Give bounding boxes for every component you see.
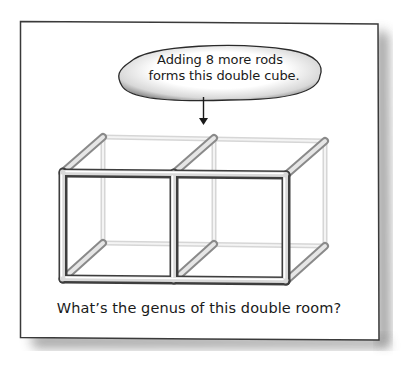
- speech-bubble-line-2: forms this double cube.: [118, 68, 322, 84]
- speech-bubble-text: Adding 8 more rods forms this double cub…: [118, 52, 322, 84]
- question-caption: What’s the genus of this double room?: [20, 300, 378, 316]
- speech-bubble-line-1: Adding 8 more rods: [157, 52, 283, 67]
